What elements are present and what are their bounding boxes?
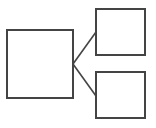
- tree-diagram: [0, 0, 156, 128]
- child-bottom-node-box: [96, 72, 145, 118]
- edge-parent-to-child-top: [73, 32, 96, 64]
- child-top-node-box: [96, 9, 145, 55]
- parent-node-box: [7, 30, 73, 98]
- edge-parent-to-child-bottom: [73, 64, 96, 96]
